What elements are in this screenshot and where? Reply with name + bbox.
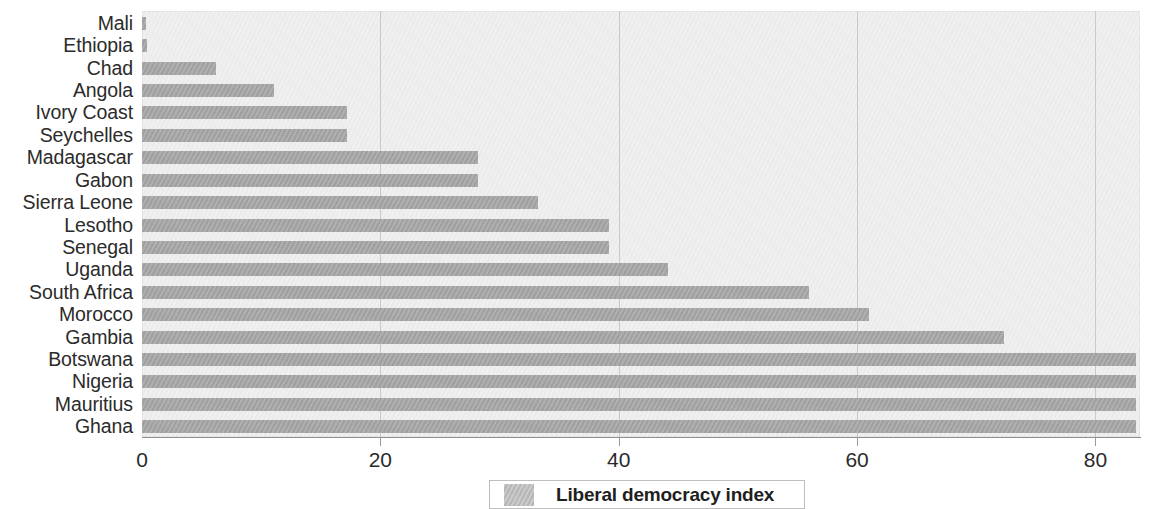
category-label-sierra-leone: Sierra Leone [0, 192, 133, 213]
bar-gambia [142, 331, 1004, 344]
category-label-seychelles: Seychelles [0, 125, 133, 146]
x-tick-label-80: 80 [1060, 448, 1130, 472]
bar-mali [142, 17, 146, 30]
x-tick-mark-20 [380, 438, 381, 446]
x-tick-label-20: 20 [345, 448, 415, 472]
x-axis-line [142, 437, 1141, 438]
bar-ghana [142, 420, 1136, 433]
bar-mauritius [142, 398, 1136, 411]
category-label-angola: Angola [0, 80, 133, 101]
category-axis: MaliEthiopiaChadAngolaIvory CoastSeychel… [0, 11, 133, 437]
category-label-gabon: Gabon [0, 170, 133, 191]
category-label-chad: Chad [0, 58, 133, 79]
plot-area [142, 11, 1140, 437]
bar-senegal [142, 241, 609, 254]
category-label-lesotho: Lesotho [0, 215, 133, 236]
x-tick-label-40: 40 [584, 448, 654, 472]
category-label-morocco: Morocco [0, 304, 133, 325]
bar-madagascar [142, 151, 478, 164]
bar-nigeria [142, 375, 1136, 388]
category-label-mali: Mali [0, 13, 133, 34]
category-label-ghana: Ghana [0, 416, 133, 437]
legend-label: Liberal democracy index [556, 484, 774, 506]
category-label-south-africa: South Africa [0, 282, 133, 303]
bar-angola [142, 84, 274, 97]
bar-gabon [142, 174, 478, 187]
bar-lesotho [142, 219, 609, 232]
category-label-ivory-coast: Ivory Coast [0, 102, 133, 123]
x-tick-label-0: 0 [107, 448, 177, 472]
category-label-gambia: Gambia [0, 327, 133, 348]
gridline-60 [857, 11, 858, 437]
bar-botswana [142, 353, 1136, 366]
liberal-democracy-index-bar-chart: MaliEthiopiaChadAngolaIvory CoastSeychel… [0, 0, 1154, 509]
bar-seychelles [142, 129, 347, 142]
bar-south-africa [142, 286, 809, 299]
category-label-mauritius: Mauritius [0, 394, 133, 415]
x-tick-mark-80 [1095, 438, 1096, 446]
category-label-ethiopia: Ethiopia [0, 35, 133, 56]
category-label-senegal: Senegal [0, 237, 133, 258]
gridline-40 [619, 11, 620, 437]
x-tick-label-60: 60 [822, 448, 892, 472]
bar-chad [142, 62, 216, 75]
bar-sierra-leone [142, 196, 538, 209]
bar-morocco [142, 308, 869, 321]
x-tick-mark-40 [619, 438, 620, 446]
legend-swatch-liberal-democracy-index [504, 484, 534, 506]
bar-uganda [142, 263, 668, 276]
chart-legend: Liberal democracy index [489, 480, 805, 509]
bar-ethiopia [142, 39, 147, 52]
x-tick-mark-60 [857, 438, 858, 446]
gridline-80 [1095, 11, 1096, 437]
category-label-uganda: Uganda [0, 259, 133, 280]
category-label-madagascar: Madagascar [0, 147, 133, 168]
bar-ivory-coast [142, 106, 347, 119]
category-label-nigeria: Nigeria [0, 371, 133, 392]
category-label-botswana: Botswana [0, 349, 133, 370]
